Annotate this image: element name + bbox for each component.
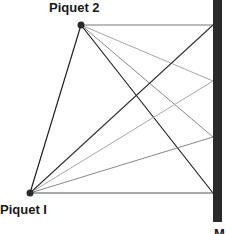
diagram-canvas	[0, 0, 226, 234]
line-p1-w3	[30, 137, 213, 193]
wall-label: M	[214, 226, 225, 234]
line-p2-w3	[81, 25, 213, 137]
piquet1-point	[27, 190, 34, 197]
piquet2-point	[78, 22, 85, 29]
piquet1-label: Piquet I	[0, 202, 47, 217]
line-p2-w2	[81, 25, 213, 81]
line-p1-w1	[30, 25, 213, 193]
wall-bar	[213, 0, 222, 222]
piquet2-label: Piquet 2	[49, 0, 100, 15]
line-p2-w4	[81, 25, 213, 193]
line-p1-w2	[30, 81, 213, 193]
line-p1-p2	[30, 25, 81, 193]
